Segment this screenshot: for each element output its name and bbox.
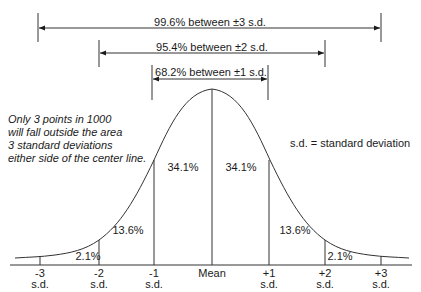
tick-plus2: +2s.d. xyxy=(316,268,334,290)
outside-area-note: Only 3 points in 1000 will fall outside … xyxy=(8,113,146,165)
area-label: 13.6% xyxy=(279,224,310,236)
area-label: 34.1% xyxy=(225,161,256,173)
range-1sd-label: 68.2% between ±1 s.d. xyxy=(155,66,267,78)
area-label: 2.1% xyxy=(75,250,100,262)
tick-minus1: -1s.d. xyxy=(145,268,163,290)
tick-plus1: +1s.d. xyxy=(260,268,278,290)
area-label: 13.6% xyxy=(112,224,143,236)
range-3sd-label: 99.6% between ±3 s.d. xyxy=(154,16,266,28)
note-line: 3 standard deviations xyxy=(8,139,146,152)
note-line: will fall outside the area xyxy=(8,126,146,139)
sd-legend: s.d. = standard deviation xyxy=(290,137,410,149)
tick-minus2: -2s.d. xyxy=(90,268,108,290)
area-label: 34.1% xyxy=(167,161,198,173)
tick-plus3: +3s.d. xyxy=(372,268,390,290)
range-2sd-label: 95.4% between ±2 s.d. xyxy=(156,41,268,53)
area-label: 2.1% xyxy=(327,250,352,262)
note-line: Only 3 points in 1000 xyxy=(8,113,146,126)
tick-mean: Mean xyxy=(198,268,226,279)
note-line: either side of the center line. xyxy=(8,152,146,165)
tick-minus3: -3s.d. xyxy=(31,268,49,290)
